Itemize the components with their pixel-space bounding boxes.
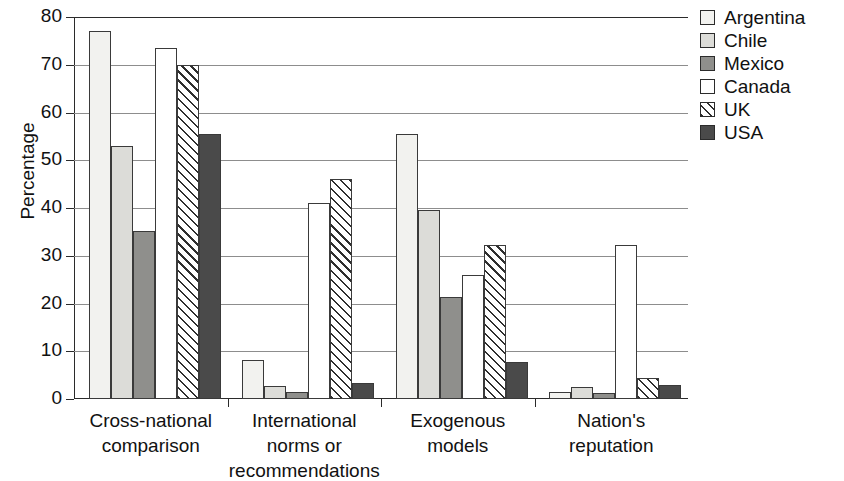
y-tick-mark xyxy=(66,256,74,257)
category-label-line: Exogenous xyxy=(371,408,545,433)
category-label-line: Nation's xyxy=(525,408,699,433)
y-tick-mark xyxy=(66,17,74,18)
legend-swatch-icon xyxy=(700,10,715,25)
category-label-line: comparison xyxy=(64,433,238,458)
bar-uk-1 xyxy=(177,65,199,399)
legend-item-mexico[interactable]: Mexico xyxy=(700,52,844,75)
bar-usa-3 xyxy=(506,362,528,399)
category-label-line: models xyxy=(371,433,545,458)
bar-chart: Percentage 01020304050607080 Cross-natio… xyxy=(0,0,844,481)
legend-item-uk[interactable]: UK xyxy=(700,98,844,121)
category-label: Cross-nationalcomparison xyxy=(64,408,238,458)
bar-canada-1 xyxy=(155,48,177,399)
bar-mexico-1 xyxy=(133,231,155,399)
y-tick-mark xyxy=(66,208,74,209)
bar-uk-4 xyxy=(637,378,659,399)
bar-argentina-1 xyxy=(89,31,111,399)
category-label-line: reputation xyxy=(525,433,699,458)
y-tick-label: 0 xyxy=(51,387,62,409)
y-tick-10: 10 xyxy=(74,351,75,352)
category-label: Internationalnorms orrecommendations xyxy=(218,408,392,481)
y-tick-label: 40 xyxy=(41,196,62,218)
legend-swatch-icon xyxy=(700,102,715,117)
category-label: Nation'sreputation xyxy=(525,408,699,458)
category-label-line: norms or xyxy=(218,433,392,458)
y-tick-0: 0 xyxy=(74,399,75,400)
legend-swatch-icon xyxy=(700,33,715,48)
bar-argentina-3 xyxy=(396,134,418,399)
legend-label: Canada xyxy=(724,76,791,98)
legend-item-usa[interactable]: USA xyxy=(700,121,844,144)
y-tick-40: 40 xyxy=(74,208,75,209)
y-tick-60: 60 xyxy=(74,113,75,114)
bar-uk-3 xyxy=(484,245,506,399)
y-tick-label: 70 xyxy=(41,53,62,75)
y-tick-label: 60 xyxy=(41,101,62,123)
legend-label: Mexico xyxy=(724,53,784,75)
plot-area: 01020304050607080 xyxy=(74,17,688,399)
legend-swatch-icon xyxy=(700,125,715,140)
y-tick-label: 80 xyxy=(41,5,62,27)
y-tick-80: 80 xyxy=(74,17,75,18)
y-tick-label: 10 xyxy=(41,339,62,361)
legend-item-canada[interactable]: Canada xyxy=(700,75,844,98)
bar-mexico-3 xyxy=(440,297,462,399)
y-tick-label: 50 xyxy=(41,148,62,170)
bar-usa-2 xyxy=(352,383,374,399)
y-tick-label: 20 xyxy=(41,292,62,314)
x-tick-separator xyxy=(228,399,229,407)
category-label-line: recommendations xyxy=(218,458,392,481)
bar-argentina-2 xyxy=(242,360,264,399)
y-tick-50: 50 xyxy=(74,160,75,161)
y-tick-70: 70 xyxy=(74,65,75,66)
bar-mexico-4 xyxy=(593,393,615,399)
bar-chile-3 xyxy=(418,210,440,399)
y-tick-mark xyxy=(66,304,74,305)
y-tick-mark xyxy=(66,113,74,114)
bar-canada-2 xyxy=(308,203,330,399)
y-tick-label: 30 xyxy=(41,244,62,266)
bar-group xyxy=(396,17,528,399)
legend-item-chile[interactable]: Chile xyxy=(700,29,844,52)
category-label: Exogenousmodels xyxy=(371,408,545,458)
legend-swatch-icon xyxy=(700,56,715,71)
y-tick-mark xyxy=(66,351,74,352)
bar-usa-4 xyxy=(659,385,681,399)
y-axis-title: Percentage xyxy=(17,91,39,251)
legend-label: USA xyxy=(724,122,763,144)
x-tick-separator xyxy=(535,399,536,407)
legend-swatch-icon xyxy=(700,79,715,94)
bar-argentina-4 xyxy=(549,392,571,399)
y-tick-mark xyxy=(66,160,74,161)
bar-uk-2 xyxy=(330,179,352,399)
y-tick-mark xyxy=(66,65,74,66)
legend-item-argentina[interactable]: Argentina xyxy=(700,6,844,29)
y-tick-30: 30 xyxy=(74,256,75,257)
y-tick-mark xyxy=(66,399,74,400)
legend: ArgentinaChileMexicoCanadaUKUSA xyxy=(700,6,844,144)
bar-group xyxy=(89,17,221,399)
y-tick-20: 20 xyxy=(74,304,75,305)
bar-chile-1 xyxy=(111,146,133,399)
legend-label: Argentina xyxy=(724,7,805,29)
category-label-line: International xyxy=(218,408,392,433)
bar-canada-4 xyxy=(615,245,637,399)
bar-group xyxy=(242,17,374,399)
bar-group xyxy=(549,17,681,399)
bar-mexico-2 xyxy=(286,392,308,399)
bar-chile-4 xyxy=(571,387,593,399)
x-tick-separator xyxy=(381,399,382,407)
legend-label: Chile xyxy=(724,30,767,52)
bar-chile-2 xyxy=(264,386,286,399)
category-label-line: Cross-national xyxy=(64,408,238,433)
bar-usa-1 xyxy=(199,134,221,399)
legend-label: UK xyxy=(724,99,750,121)
bar-canada-3 xyxy=(462,275,484,399)
